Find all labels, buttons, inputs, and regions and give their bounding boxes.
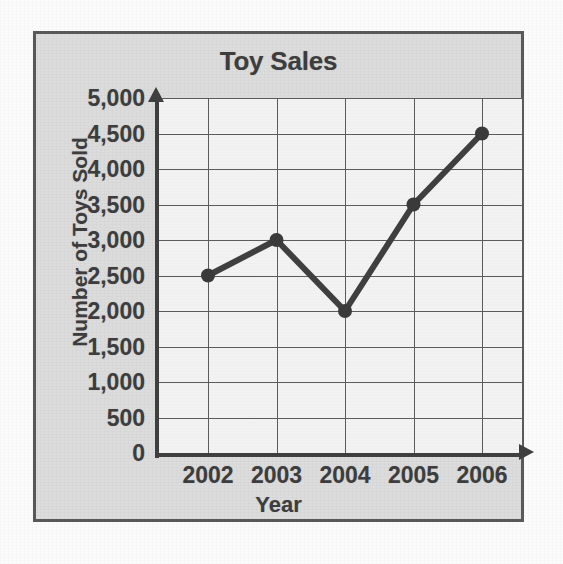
x-axis-arrow-icon	[519, 444, 534, 460]
y-tick-label: 2,500	[87, 262, 145, 289]
x-tick-label: 2004	[319, 462, 370, 489]
x-tick-label: 2005	[388, 462, 439, 489]
x-axis-line	[155, 453, 521, 457]
y-tick-label: 3,500	[87, 191, 145, 218]
y-tick-label: 1,500	[87, 333, 145, 360]
y-tick-label: 2,000	[87, 298, 145, 325]
y-tick-label: 4,000	[87, 156, 145, 183]
x-axis-title: Year	[36, 492, 521, 518]
plot-area	[156, 98, 523, 453]
chart-panel: Toy Sales Number of Toys Sold 5,0004,500…	[33, 31, 524, 522]
x-tick-label: 2003	[251, 462, 302, 489]
y-tick-label: 0	[132, 440, 145, 467]
y-axis-tick-labels: 5,0004,5004,0003,5003,0002,5002,0001,500…	[36, 34, 149, 525]
data-point-marker	[201, 269, 215, 283]
x-tick-label: 2006	[456, 462, 507, 489]
y-tick-label: 500	[107, 404, 145, 431]
y-tick-label: 5,000	[87, 85, 145, 112]
y-tick-label: 4,500	[87, 120, 145, 147]
y-tick-label: 1,000	[87, 369, 145, 396]
y-tick-label: 3,000	[87, 227, 145, 254]
y-axis-line	[155, 98, 159, 458]
data-point-marker	[407, 198, 421, 212]
data-point-marker	[270, 233, 284, 247]
data-point-marker	[475, 127, 489, 141]
chart-page: Toy Sales Number of Toys Sold 5,0004,500…	[0, 0, 563, 564]
data-point-marker	[338, 304, 352, 318]
x-tick-label: 2002	[182, 462, 233, 489]
data-series-line	[156, 98, 523, 453]
y-axis-arrow-icon	[148, 87, 164, 102]
